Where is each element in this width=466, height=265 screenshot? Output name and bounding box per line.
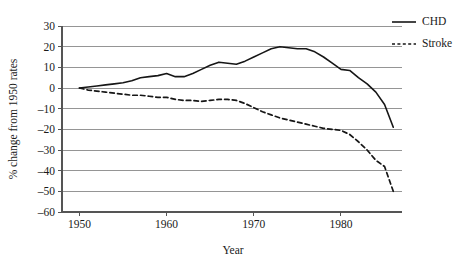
y-tick-labels: 3020100–10–20–30–40–50–60 xyxy=(37,20,62,218)
y-tick-label: 20 xyxy=(44,41,56,53)
y-tick-label: 0 xyxy=(49,82,55,94)
x-tick-labels: 1950196019701980 xyxy=(68,212,353,230)
chart-figure: 3020100–10–20–30–40–50–60 19501960197019… xyxy=(0,0,466,265)
x-tick-label: 1960 xyxy=(155,218,178,230)
x-tick-label: 1980 xyxy=(329,218,352,230)
y-tick-label: 30 xyxy=(44,20,56,32)
y-tick-label: –20 xyxy=(37,123,56,135)
data-series xyxy=(79,47,393,192)
y-tick-label: –50 xyxy=(37,185,56,197)
gridlines xyxy=(62,26,402,191)
chart-canvas: 3020100–10–20–30–40–50–60 19501960197019… xyxy=(0,0,466,265)
series-line-stroke xyxy=(79,88,393,191)
series-line-chd xyxy=(79,47,393,128)
x-axis-title: Year xyxy=(222,244,243,256)
y-tick-label: –30 xyxy=(37,144,56,156)
legend-label-chd: CHD xyxy=(422,15,446,27)
y-tick-label: 10 xyxy=(44,61,56,73)
legend-label-stroke: Stroke xyxy=(422,37,452,49)
y-axis-title: % change from 1950 rates xyxy=(7,58,20,179)
y-tick-label: –10 xyxy=(37,103,56,115)
y-tick-label: –40 xyxy=(37,165,56,177)
x-tick-label: 1950 xyxy=(68,218,91,230)
y-tick-label: –60 xyxy=(37,206,56,218)
legend: CHDStroke xyxy=(392,15,452,49)
x-tick-label: 1970 xyxy=(242,218,265,230)
